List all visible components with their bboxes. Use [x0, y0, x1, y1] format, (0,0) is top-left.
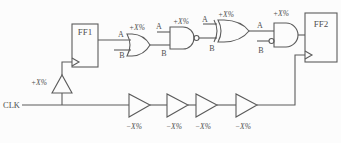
wire-buf4-to-ff2-clock: [257, 55, 305, 105]
xor-gate-input-a-label: A: [202, 15, 208, 24]
delay-buffer-2-symbol: [167, 94, 188, 117]
circuit-diagram: FF1 +X% +X% A B +X% A B +X% A B: [0, 0, 341, 143]
clock-buffer-symbol: [52, 75, 72, 93]
delay-buffer-2-label: −X%: [166, 122, 182, 131]
nand-gate: +X% A B: [156, 17, 199, 58]
delay-buffer-3-symbol: [196, 94, 217, 117]
xor-gate-back-curve: [214, 20, 217, 42]
or-gate: +X% A B: [118, 23, 150, 60]
or-gate-delay-label: +X%: [129, 23, 145, 32]
circuit-svg: FF1 +X% +X% A B +X% A B +X% A B: [0, 0, 341, 143]
delay-buffer-1-label: −X%: [126, 122, 142, 131]
xor-gate-symbol: [218, 20, 249, 42]
clock-buffer: +X%: [31, 75, 72, 93]
or-gate-input-b-label: B: [119, 51, 124, 60]
nand-gate-symbol: [170, 27, 194, 49]
nand-gate-input-a-label: A: [156, 22, 162, 31]
xor-gate-delay-label: +X%: [218, 10, 234, 19]
and-gate-input-a-label: A: [257, 21, 263, 30]
or-gate-input-a-label: A: [118, 30, 124, 39]
delay-buffer-1-symbol: [129, 94, 150, 117]
ff2-label: FF2: [314, 19, 329, 29]
ff1-label: FF1: [78, 27, 93, 37]
delay-buffer-4-label: −X%: [235, 122, 251, 131]
nand-gate-output-bubble: [194, 36, 199, 41]
and-gate-b-input-bubble: [269, 39, 274, 44]
ff1-clock-triangle-icon: [72, 58, 79, 66]
clock-buffer-delay-label: +X%: [31, 78, 47, 87]
delay-buffer-4-symbol: [236, 94, 257, 117]
nand-gate-input-b-label: B: [161, 49, 166, 58]
delay-buffer-3-label: −X%: [195, 122, 211, 131]
xor-gate-input-b-label: B: [209, 44, 214, 53]
ff2-clock-triangle-icon: [305, 51, 312, 59]
xor-gate: +X% A B: [202, 10, 249, 53]
nand-gate-delay-label: +X%: [173, 17, 189, 26]
ff1-flipflop: FF1: [72, 24, 98, 67]
or-gate-symbol: [127, 34, 150, 56]
wire-clockbuffer-to-ff1-clock: [62, 62, 72, 75]
and-gate-input-b-label: B: [258, 46, 263, 55]
clock-network: CLK −X% −X% −X% −X%: [3, 94, 257, 131]
and-gate-symbol: [274, 23, 298, 47]
and-gate: +X% A B: [257, 9, 298, 55]
clk-label: CLK: [3, 100, 21, 110]
and-gate-delay-label: +X%: [273, 9, 289, 18]
ff2-flipflop: FF2: [305, 13, 337, 62]
